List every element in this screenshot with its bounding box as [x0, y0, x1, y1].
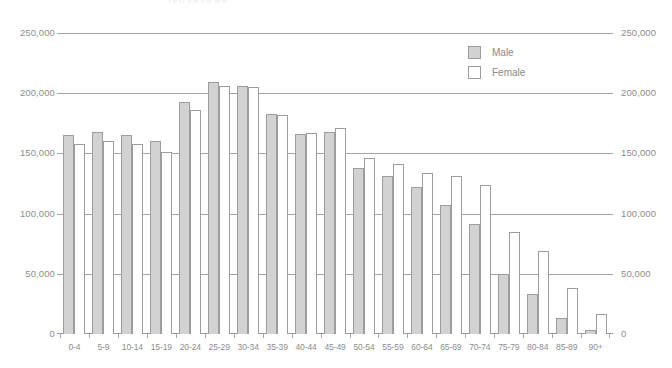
x-axis-tickmarks	[57, 334, 613, 339]
x-axis-tickmark	[89, 334, 118, 339]
x-axis-label-5-9: 5-9	[89, 342, 118, 352]
x-axis-label-50-54: 50-54	[350, 342, 379, 352]
bar-female-75-79	[509, 232, 520, 334]
x-axis-label-20-24: 20-24	[176, 342, 205, 352]
y-axis-tick-label-right: 50,000	[621, 268, 651, 279]
bar-female-10-14	[132, 144, 143, 334]
bar-group	[407, 33, 436, 334]
bar-male-50-54	[353, 168, 364, 334]
x-axis-tickmark	[552, 334, 581, 339]
bar-female-85-89	[567, 288, 578, 334]
y-axis-tick-label-left: 100,000	[20, 208, 55, 219]
bar-groups	[57, 33, 613, 334]
bar-male-30-34	[237, 86, 248, 334]
x-axis-tickmark	[465, 334, 494, 339]
x-axis-label-55-59: 55-59	[378, 342, 407, 352]
bar-group	[234, 33, 263, 334]
bar-group	[552, 33, 581, 334]
x-axis-label-10-14: 10-14	[118, 342, 147, 352]
y-axis-tick-label-left: 250,000	[20, 27, 55, 38]
x-axis-label-30-34: 30-34	[234, 342, 263, 352]
bar-male-40-44	[295, 134, 306, 334]
x-axis-label-80-84: 80-84	[523, 342, 552, 352]
bar-male-80-84	[527, 294, 538, 334]
bar-group	[205, 33, 234, 334]
bar-group	[292, 33, 321, 334]
x-axis-label-40-44: 40-44	[292, 342, 321, 352]
chart-title: (ljrj) jig jig gig	[168, 0, 228, 3]
bar-female-45-49	[335, 128, 346, 334]
legend-item-female: Female	[468, 62, 525, 82]
x-axis-label-85-89: 85-89	[552, 342, 581, 352]
bar-group	[147, 33, 176, 334]
legend-label-female: Female	[492, 67, 525, 78]
bar-male-85-89	[556, 318, 567, 334]
bar-male-10-14	[121, 135, 132, 334]
bar-female-5-9	[103, 141, 114, 334]
bar-female-55-59	[393, 164, 404, 334]
bar-male-75-79	[498, 274, 509, 334]
bar-female-60-64	[422, 173, 433, 334]
bar-male-15-19	[150, 141, 161, 334]
bar-group	[523, 33, 552, 334]
bar-male-5-9	[92, 132, 103, 334]
y-axis-tick-label-left: 200,000	[20, 87, 55, 98]
x-axis-tickmark	[118, 334, 147, 339]
bar-group	[176, 33, 205, 334]
x-axis-tickmark	[407, 334, 436, 339]
bar-female-70-74	[480, 185, 491, 334]
bar-male-70-74	[469, 224, 480, 334]
chart-title-strip: (ljrj) jig jig gig	[0, 0, 672, 10]
x-axis-tickmark	[234, 334, 263, 339]
x-axis-label-90+: 90+	[581, 342, 610, 352]
bar-male-25-29	[208, 82, 219, 334]
x-axis-label-15-19: 15-19	[147, 342, 176, 352]
bar-female-40-44	[306, 133, 317, 334]
x-axis-tickmark	[494, 334, 523, 339]
bar-female-0-4	[74, 144, 85, 334]
x-axis-tickmark	[60, 334, 89, 339]
y-axis-tick-label-left: 50,000	[25, 268, 55, 279]
bar-male-60-64	[411, 187, 422, 334]
bar-group	[350, 33, 379, 334]
x-axis-tickmark	[147, 334, 176, 339]
bar-female-50-54	[364, 158, 375, 334]
bar-female-35-39	[277, 115, 288, 334]
x-axis-tickmark	[176, 334, 205, 339]
x-axis-tickmark	[350, 334, 379, 339]
bar-female-20-24	[190, 110, 201, 334]
x-axis-label-60-64: 60-64	[407, 342, 436, 352]
y-axis-tick-label-left: 150,000	[20, 147, 55, 158]
y-axis-tick-label-right: 200,000	[621, 87, 656, 98]
bar-male-45-49	[324, 132, 335, 334]
x-axis-tickmark	[523, 334, 552, 339]
bar-male-0-4	[63, 135, 74, 334]
y-axis-tick-label-left: 0	[50, 328, 55, 339]
bar-group	[89, 33, 118, 334]
y-axis-tick-label-right: 0	[621, 328, 626, 339]
x-axis-tickmark	[263, 334, 292, 339]
female-swatch-icon	[468, 66, 481, 79]
bar-male-65-69	[440, 205, 451, 334]
bar-female-15-19	[161, 152, 172, 334]
x-axis-label-35-39: 35-39	[263, 342, 292, 352]
bar-male-35-39	[266, 114, 277, 334]
bar-female-90+	[596, 314, 607, 334]
chart-legend: MaleFemale	[468, 42, 525, 82]
y-axis-tick-label-right: 100,000	[621, 208, 656, 219]
male-swatch-icon	[468, 46, 481, 59]
bar-female-80-84	[538, 251, 549, 334]
x-axis-label-45-49: 45-49	[321, 342, 350, 352]
plot-area	[57, 33, 613, 334]
bar-group	[263, 33, 292, 334]
legend-label-male: Male	[492, 47, 514, 58]
bar-female-30-34	[248, 87, 259, 334]
x-axis-tickmark	[205, 334, 234, 339]
bar-female-25-29	[219, 86, 230, 334]
bar-group	[378, 33, 407, 334]
x-axis-tickmark	[378, 334, 407, 339]
x-axis-tickmark	[321, 334, 350, 339]
bar-group	[321, 33, 350, 334]
bar-female-65-69	[451, 176, 462, 334]
population-pyramid-bar-chart: (ljrj) jig jig gig 050,000100,000150,000…	[0, 0, 672, 368]
